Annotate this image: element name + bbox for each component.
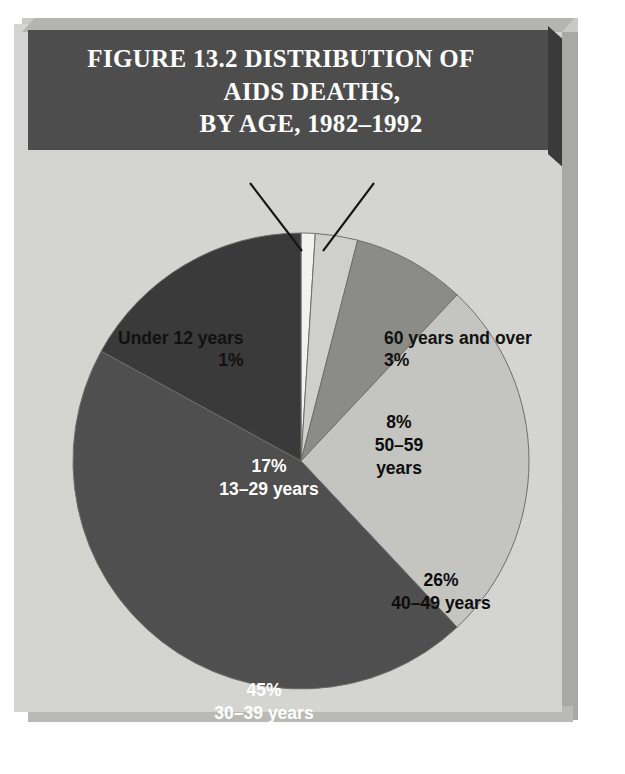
slice-label-30-39-years-percent: 45% [164, 679, 364, 702]
figure-panel: FIGURE 13.2 DISTRIBUTION OF AIDS DEATHS,… [0, 0, 625, 774]
callout-under-12-years: Under 12 years 1% [118, 327, 244, 371]
slice-label-40-49-years: 26% 40–49 years [362, 569, 520, 615]
slice-label-13-29-years: 17% 13–29 years [174, 455, 364, 501]
slice-label-30-39-years: 45% 30–39 years [164, 679, 364, 725]
slice-label-30-39-years-category: 30–39 years [164, 702, 364, 725]
pie-chart-area: Under 12 years 1% 60 years and over 3% 8… [14, 155, 562, 712]
callout-under-12-years-percent: 1% [118, 349, 244, 371]
figure-title-line-1: FIGURE 13.2 DISTRIBUTION OF [28, 43, 548, 76]
callout-60-years-and-over-percent: 3% [384, 349, 532, 371]
callout-under-12-years-category: Under 12 years [118, 327, 244, 349]
slice-label-50-59-years-range: 50–59 [344, 434, 454, 457]
figure-title-bar: FIGURE 13.2 DISTRIBUTION OF AIDS DEATHS,… [28, 30, 548, 150]
figure-title-line-3: BY AGE, 1982–1992 [28, 108, 548, 141]
title-bar-side-bevel [548, 26, 562, 167]
slice-label-13-29-years-percent: 17% [174, 455, 364, 478]
panel-right-shadow [560, 30, 578, 720]
figure-title-line-2: AIDS DEATHS, [28, 76, 548, 109]
callout-60-years-and-over-category: 60 years and over [384, 327, 532, 349]
slice-label-40-49-years-percent: 26% [362, 569, 520, 592]
slice-label-50-59-years-percent: 8% [344, 411, 454, 434]
slice-label-40-49-years-category: 40–49 years [362, 592, 520, 615]
slice-label-13-29-years-category: 13–29 years [174, 478, 364, 501]
callout-60-years-and-over: 60 years and over 3% [384, 327, 532, 371]
pie-chart-svg [14, 155, 562, 712]
